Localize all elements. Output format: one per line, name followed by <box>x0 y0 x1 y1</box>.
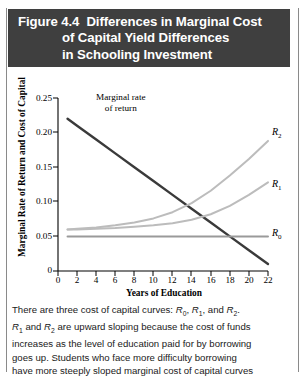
figure-title-line-2: of Capital Yield Differences <box>18 30 280 46</box>
y-axis-ticks <box>53 98 58 271</box>
caption-line-4: goes up. Students who face more difficul… <box>12 351 294 364</box>
series-line-marginal-rate-of-return <box>68 119 268 264</box>
caption-line-2: R1 and R2 are upward sloping because the… <box>12 320 294 337</box>
figure-header-banner: Figure 4.4 Differences in Marginal Cost … <box>8 9 290 67</box>
figure-caption: There are three cost of capital curves: … <box>12 303 294 377</box>
figure-container: Figure 4.4 Differences in Marginal Cost … <box>0 0 306 378</box>
chart-series-group <box>68 119 268 264</box>
chart-plot-area: Marginal Rate of Return and Cost of Capi… <box>0 70 306 300</box>
figure-number: Figure 4.4 <box>18 14 79 29</box>
x-axis-ticks <box>58 271 268 276</box>
caption-line-3: increases as the level of education paid… <box>12 337 294 350</box>
chart-svg-canvas <box>0 70 306 300</box>
series-line-r2 <box>68 141 268 230</box>
figure-title-line-1: Differences in Marginal Cost <box>86 14 261 29</box>
header-line-1: Figure 4.4 Differences in Marginal Cost <box>18 14 280 30</box>
caption-line-1: There are three cost of capital curves: … <box>12 303 294 320</box>
series-line-r1 <box>68 182 268 229</box>
figure-title-line-3: in Schooling Investment <box>18 47 280 63</box>
caption-line-5: have more steeply sloped marginal cost o… <box>12 364 294 377</box>
